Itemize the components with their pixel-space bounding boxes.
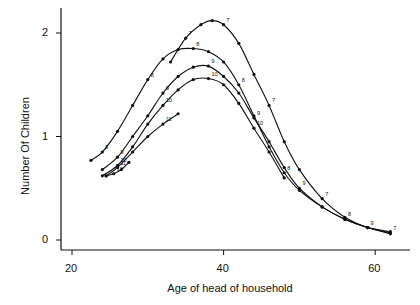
series-marker-label: 8 <box>105 144 108 150</box>
series-marker-label: 8 <box>287 165 290 171</box>
series-marker-label: 11 <box>120 160 126 166</box>
series-marker-label: 7 <box>325 191 328 197</box>
y-tick-label: 2 <box>42 26 48 38</box>
data-point <box>222 75 225 78</box>
data-point <box>237 91 240 94</box>
data-point <box>169 60 172 63</box>
x-tick-label: 40 <box>217 262 229 274</box>
data-point <box>161 122 164 125</box>
data-point <box>298 168 301 171</box>
data-point <box>192 47 195 50</box>
x-tick-label: 60 <box>368 262 380 274</box>
series-marker-label: 7 <box>189 30 192 36</box>
data-point <box>161 91 164 94</box>
data-point <box>207 65 210 68</box>
series-line-8 <box>91 48 390 231</box>
series-marker-label: 9 <box>257 110 260 116</box>
data-point <box>192 66 195 69</box>
data-point <box>252 73 255 76</box>
series-marker-label: 10 <box>166 97 172 103</box>
data-point <box>237 83 240 86</box>
data-point <box>321 205 324 208</box>
data-point <box>146 78 149 81</box>
series-marker-label: 9 <box>166 85 169 91</box>
y-axis-label: Number Of Children <box>19 91 31 201</box>
data-point <box>252 127 255 130</box>
series-marker-label: 7 <box>227 17 230 23</box>
data-point <box>211 19 214 22</box>
series-marker-label: 10 <box>257 120 263 126</box>
data-point <box>222 60 225 63</box>
x-tick-label: 20 <box>65 262 77 274</box>
series-marker-label: 8 <box>151 72 154 78</box>
series-line-9 <box>102 65 390 233</box>
series-marker-label: 9 <box>302 180 305 186</box>
data-point <box>283 176 286 179</box>
data-point <box>105 174 108 177</box>
data-point <box>207 50 210 53</box>
data-point <box>101 150 104 153</box>
line-chart: 7777788888899999910101010111112 <box>0 0 420 305</box>
chart-container: 7777788888899999910101010111112 Number O… <box>0 0 420 305</box>
data-point <box>192 78 195 81</box>
data-point <box>283 166 286 169</box>
data-point <box>343 218 346 221</box>
series-marker-label: 8 <box>196 41 199 47</box>
data-point <box>298 187 301 190</box>
data-point <box>146 122 149 125</box>
data-point <box>222 23 225 26</box>
data-point <box>116 130 119 133</box>
data-point <box>131 135 134 138</box>
x-axis-label: Age of head of household <box>160 282 300 294</box>
data-point <box>366 226 369 229</box>
data-point <box>177 75 180 78</box>
data-point <box>237 102 240 105</box>
data-point <box>222 83 225 86</box>
series-line-7 <box>171 21 391 233</box>
data-point <box>283 171 286 174</box>
series-marker-label: 10 <box>211 71 217 77</box>
data-point <box>131 145 134 148</box>
data-point <box>267 104 270 107</box>
series-marker-label: 9 <box>120 149 123 155</box>
data-point <box>177 112 180 115</box>
series-marker-label: 7 <box>272 97 275 103</box>
data-point <box>389 232 392 235</box>
series-marker-label: 11 <box>166 116 172 122</box>
data-point <box>177 48 180 51</box>
data-point <box>116 156 119 159</box>
data-point <box>207 77 210 80</box>
data-point <box>267 140 270 143</box>
series-marker-label: 7 <box>393 225 396 231</box>
data-point <box>237 42 240 45</box>
data-point <box>321 197 324 200</box>
data-point <box>146 135 149 138</box>
data-point <box>199 23 202 26</box>
data-point <box>184 37 187 40</box>
series-marker-label: 9 <box>371 220 374 226</box>
data-point <box>112 172 115 175</box>
data-point <box>89 159 92 162</box>
data-point <box>131 104 134 107</box>
y-tick-label: 0 <box>42 233 48 245</box>
data-point <box>252 116 255 119</box>
data-point <box>101 168 104 171</box>
y-tick-label: 1 <box>42 130 48 142</box>
data-point <box>131 150 134 153</box>
data-point <box>161 104 164 107</box>
data-point <box>283 140 286 143</box>
data-point <box>101 174 104 177</box>
data-point <box>267 150 270 153</box>
series-marker-label: 8 <box>348 211 351 217</box>
data-point <box>161 57 164 60</box>
data-point <box>146 114 149 117</box>
data-point <box>120 168 123 171</box>
series-marker-label: 8 <box>242 77 245 83</box>
series-marker-label: 9 <box>211 58 214 64</box>
data-point <box>177 88 180 91</box>
data-point <box>127 161 130 164</box>
data-point <box>267 145 270 148</box>
